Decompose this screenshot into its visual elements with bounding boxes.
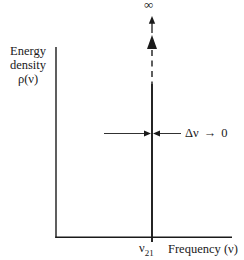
right-arrow-glyph-icon: → (204, 126, 217, 140)
y-axis-label: Energy density ρ(ν) (6, 44, 50, 86)
infinity-symbol: ∞ (144, 0, 153, 11)
left-converging-arrowhead-icon (144, 131, 151, 137)
y-axis-label-line2: density (6, 58, 50, 72)
delta-function-spectrum-figure: ∞ Energy density ρ(ν) Δν→0 ν21 Frequency… (0, 0, 244, 260)
x-tick-label: ν21 (139, 241, 154, 255)
large-up-arrowhead-icon (147, 35, 157, 49)
zero-label: 0 (221, 126, 227, 140)
x-tick-subscript: 21 (145, 248, 154, 258)
y-axis-label-line3: ρ(ν) (6, 72, 50, 86)
delta-nu-label: Δν (185, 126, 199, 140)
x-axis-label: Frequency (ν) (168, 242, 238, 257)
linewidth-annotation: Δν→0 (185, 126, 227, 141)
right-converging-arrowhead-icon (153, 131, 160, 137)
small-up-arrowhead-icon (149, 16, 155, 24)
linewidth-arrows (104, 131, 181, 137)
y-axis-label-line1: Energy (6, 44, 50, 58)
